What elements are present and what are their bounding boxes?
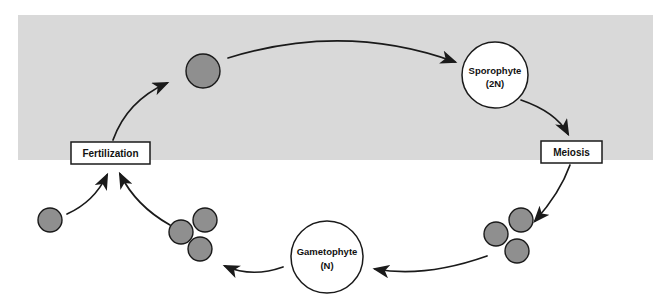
gametophyte-label-ploidy: (N) — [320, 260, 333, 271]
spore-cell — [193, 208, 217, 232]
gametophyte-circle — [291, 221, 363, 293]
fertilization-box: Fertilization — [71, 142, 150, 164]
zygote-cell — [186, 54, 220, 88]
spore-cell — [169, 220, 193, 244]
gametophyte-node: Gametophyte (N) — [291, 221, 363, 293]
diagram-canvas: Sporophyte (2N) Gametophyte (N) Fertiliz… — [0, 0, 664, 306]
arrow-meiosis-to-spores — [535, 165, 570, 221]
meiosis-box: Meiosis — [541, 141, 602, 163]
gametophyte-label-name: Gametophyte — [297, 246, 358, 257]
sporophyte-label-name: Sporophyte — [469, 65, 522, 76]
gamete-cell — [38, 208, 62, 232]
arrow-spores-to-gametophyte — [375, 256, 487, 272]
meiosis-box-label: Meiosis — [553, 147, 590, 158]
fertilization-box-label: Fertilization — [82, 148, 138, 159]
arrow-gametophyte-to-gametes — [225, 266, 283, 272]
spore-cell — [484, 222, 508, 246]
spore-cell — [505, 239, 529, 263]
spore-cell — [188, 237, 212, 261]
sporophyte-node: Sporophyte (2N) — [462, 42, 528, 108]
spore-cell — [509, 208, 533, 232]
alternation-of-generations-diagram: Sporophyte (2N) Gametophyte (N) Fertiliz… — [0, 0, 664, 306]
arrow-spores-to-fertilization — [120, 174, 170, 225]
arrow-gamete-to-fertilization — [67, 175, 107, 214]
sporophyte-label-ploidy: (2N) — [486, 78, 504, 89]
